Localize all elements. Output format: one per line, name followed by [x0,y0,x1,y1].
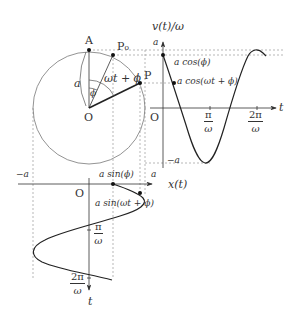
label-x-max: a [151,170,156,179]
label-v-axis: v(t)/ω [152,21,184,32]
label-v-max: a [153,38,158,47]
tick-2pi-over-omega-v: 2π ω [248,110,263,134]
label-x-min: −a [16,170,29,179]
tick-pi-over-omega-x: π ω [94,222,103,246]
label-phi: ϕ [90,89,96,98]
label-t-x: t [88,296,92,307]
label-A: A [85,35,93,46]
label-O-circle: O [84,112,93,123]
radius-OP [89,83,140,108]
v-point-initial [161,53,165,57]
diagram-canvas [0,0,290,318]
tick-2pi-over-omega-x: 2π ω [70,272,85,296]
label-O-x: O [75,188,84,199]
x-point-initial [111,182,115,186]
radius-arc [80,52,86,106]
label-a-cos-wt-phi: a cos(ωt + ϕ) [177,77,238,86]
x-point-current [138,191,142,195]
v-point-current [172,81,176,85]
label-t-v: t [279,102,283,113]
guide-lines [33,50,285,278]
label-O-v: O [150,112,159,123]
label-P0: P₀ [117,41,129,52]
point-P0 [111,53,115,57]
label-P: P [144,70,151,81]
label-a-sin-phi: a sin(ϕ) [99,170,134,179]
label-v-min: −a [167,156,180,165]
point-A [87,48,91,52]
label-radius: a [74,78,81,89]
tick-pi-over-omega-v: π ω [204,110,213,134]
label-a-cos-phi: a cos(ϕ) [174,58,210,67]
label-a-sin-wt-phi: a sin(ωt + ϕ) [95,199,154,208]
label-x-axis: x(t) [168,179,187,190]
label-omega-t-phi: ωt + ϕ [104,73,141,84]
